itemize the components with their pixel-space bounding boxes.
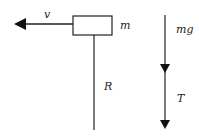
tension-label: T: [177, 92, 186, 105]
mass-label: m: [120, 19, 130, 32]
weight-label: mg: [176, 23, 193, 36]
force-diagram: v m R mg T: [0, 0, 199, 140]
arrowhead-left-icon: [14, 18, 26, 30]
mass-block: [73, 16, 112, 35]
arrowhead-down-icon: [160, 64, 170, 73]
reaction-label: R: [103, 80, 112, 93]
velocity-label: v: [44, 8, 51, 21]
force-arrows: [160, 15, 170, 129]
arrowhead-down-icon: [160, 120, 170, 129]
